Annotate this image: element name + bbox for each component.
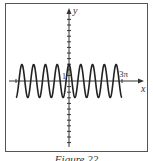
x-tick-label-3pi: 3π	[119, 69, 129, 79]
x-axis-label: x	[140, 83, 146, 94]
figure-caption: Figure 22	[0, 153, 153, 161]
x-axis	[9, 79, 144, 84]
y-axis-label: y	[72, 5, 78, 16]
graph: y x 1 3π	[0, 0, 153, 161]
y-tick-label-one: 1	[62, 72, 66, 81]
